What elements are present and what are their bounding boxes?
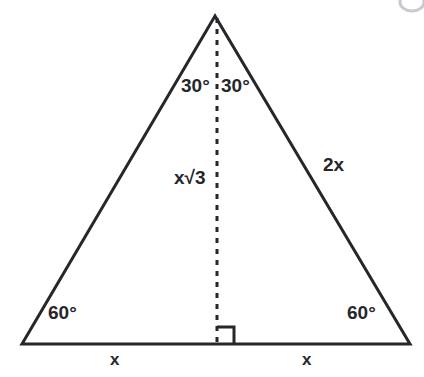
right-angle-marker [217,327,234,344]
side-length-label-right: 2x [323,155,344,174]
angle-label-apex-right: 30° [221,76,250,95]
base-segment-label-left: x [110,351,119,368]
angle-label-base-right: 60° [347,303,376,322]
scan-artifact-arc [400,0,424,11]
angle-label-apex-left: 30° [181,76,210,95]
diagram-canvas: 30° 30° x√3 2x 60° 60° x x [0,0,424,377]
base-segment-label-right: x [302,351,311,368]
angle-label-base-left: 60° [48,303,77,322]
altitude-length-label: x√3 [174,168,206,187]
